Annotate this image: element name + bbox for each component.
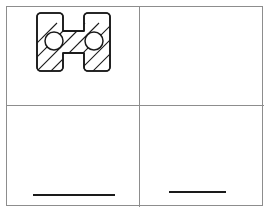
- grid-cell-top-left[interactable]: H-shaped (I-beam) block with diagonal ha…: [7, 7, 139, 105]
- answer-line-bottom-right[interactable]: [169, 191, 226, 193]
- grid-cell-bottom-left[interactable]: [7, 106, 139, 207]
- grid-cell-bottom-right[interactable]: [140, 106, 264, 207]
- hatched-h-block-reference-figure: [7, 7, 139, 105]
- answer-line-bottom-left[interactable]: [33, 194, 115, 196]
- block-hole-right: [85, 32, 103, 50]
- worksheet-page: H-shaped (I-beam) block with diagonal ha…: [0, 0, 270, 212]
- hatched-h-block-rotated-figure: [140, 7, 264, 105]
- grid-cell-top-right[interactable]: Same H-shaped block rotated, hatching ne…: [140, 7, 264, 105]
- answer-grid: H-shaped (I-beam) block with diagonal ha…: [6, 6, 263, 206]
- block-hole-left: [45, 32, 63, 50]
